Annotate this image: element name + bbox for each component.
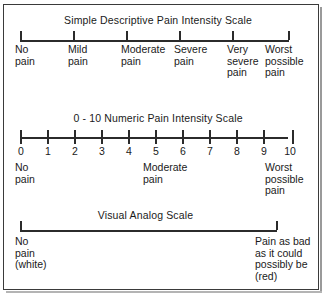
numeric-tick-8 [236,130,238,144]
vas-label-worst-pain: Pain as bad as it could possibly be (red… [255,236,310,282]
numeric-tick-6 [182,130,184,144]
label-severe-pain: Severe pain [174,44,207,67]
numeric-label-10: 10 [283,146,297,157]
numeric-label-5: 5 [149,146,163,157]
label-worst-possible-pain: Worst possible pain [265,44,304,79]
tick-mild-pain [73,31,75,40]
vas-label-no-pain: No pain (white) [15,236,47,271]
numeric-scale-title: 0 - 10 Numeric Pain Intensity Scale [13,112,303,124]
numeric-sublabel-moderate-pain-line-2: pain [143,174,187,186]
vas-label-no-pain-line-3: (white) [15,259,47,271]
tick-worst-possible-pain [288,31,290,40]
tick-severe-pain [179,31,181,40]
label-severe-pain-line-2: pain [174,56,207,68]
label-no-pain: No pain [15,44,35,67]
numeric-label-9: 9 [257,146,271,157]
frame-shadow-right [320,7,322,293]
label-worst-possible-pain-line-3: pain [265,67,304,79]
numeric-tick-3 [101,130,103,144]
vas-label-worst-pain-line-4: (red) [255,271,310,283]
numeric-label-2: 2 [68,146,82,157]
label-mild-pain-line-2: pain [68,56,88,68]
numeric-sublabel-worst-line-3: pain [265,185,304,197]
vas-tick-right [276,221,278,230]
numeric-label-1: 1 [41,146,55,157]
pain-scales-figure: Simple Descriptive Pain Intensity Scale … [0,0,326,298]
label-mild-pain: Mild pain [68,44,88,67]
numeric-sublabel-no-pain-line-1: No [15,162,35,174]
numeric-label-4: 4 [122,146,136,157]
tick-moderate-pain [126,31,128,40]
label-very-severe-pain: Very severe pain [227,44,259,79]
numeric-tick-9 [263,130,265,144]
numeric-sublabel-no-pain: No pain [15,162,35,185]
vas-label-worst-pain-line-3: possibly be [255,259,310,271]
visual-analog-scale-title: Visual Analog Scale [13,209,278,221]
label-moderate-pain-line-2: pain [121,56,165,68]
numeric-sublabel-worst-line-1: Worst [265,162,304,174]
numeric-label-6: 6 [176,146,190,157]
numeric-tick-1 [47,130,49,144]
label-mild-pain-line-1: Mild [68,44,88,56]
simple-descriptive-axis-line [20,40,289,42]
vas-label-worst-pain-line-1: Pain as bad [255,236,310,248]
numeric-sublabel-moderate-pain: Moderate pain [143,162,187,185]
label-moderate-pain: Moderate pain [121,44,165,67]
label-moderate-pain-line-1: Moderate [121,44,165,56]
numeric-sublabel-no-pain-line-2: pain [15,174,35,186]
tick-no-pain [20,31,22,40]
tick-very-severe-pain [232,31,234,40]
label-no-pain-line-1: No [15,44,35,56]
numeric-axis-line [20,137,288,139]
label-no-pain-line-2: pain [15,56,35,68]
visual-analog-axis-line [20,230,277,232]
numeric-label-3: 3 [95,146,109,157]
numeric-tick-10 [292,130,294,144]
vas-label-no-pain-line-1: No [15,236,47,248]
label-severe-pain-line-1: Severe [174,44,207,56]
numeric-tick-7 [209,130,211,144]
numeric-label-7: 7 [203,146,217,157]
label-very-severe-pain-line-3: pain [227,67,259,79]
numeric-tick-0 [20,130,22,144]
numeric-tick-2 [74,130,76,144]
numeric-sublabel-worst-possible-pain: Worst possible pain [265,162,304,197]
simple-descriptive-scale-title: Simple Descriptive Pain Intensity Scale [13,14,303,26]
frame-shadow-bottom [6,291,322,293]
numeric-tick-4 [128,130,130,144]
vas-tick-left [20,221,22,230]
numeric-tick-5 [155,130,157,144]
numeric-label-0: 0 [14,146,28,157]
label-worst-possible-pain-line-1: Worst [265,44,304,56]
numeric-sublabel-moderate-pain-line-1: Moderate [143,162,187,174]
numeric-label-8: 8 [230,146,244,157]
label-very-severe-pain-line-1: Very [227,44,259,56]
